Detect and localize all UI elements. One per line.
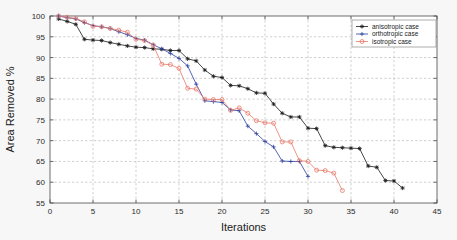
y-tick-label: 85 (36, 74, 45, 83)
x-tick-label: 45 (433, 207, 442, 216)
legend-label: isotropic case (372, 38, 412, 46)
y-tick-label: 55 (36, 199, 45, 208)
x-tick-label: 5 (91, 207, 96, 216)
x-tick-label: 35 (347, 207, 356, 216)
y-tick-label: 65 (36, 157, 45, 166)
y-tick-label: 95 (36, 33, 45, 42)
chart-figure: 051015202530354045 556065707580859095100… (0, 0, 457, 240)
x-tick-label: 40 (390, 207, 399, 216)
x-tick-label: 25 (261, 207, 270, 216)
y-tick-label: 75 (36, 116, 45, 125)
x-tick-label: 0 (48, 207, 53, 216)
line-chart: 051015202530354045 556065707580859095100… (0, 0, 457, 240)
y-tick-label: 70 (36, 137, 45, 146)
y-tick-label: 90 (36, 54, 45, 63)
chart-legend: anisotropic caseorthotropic caseisotropi… (352, 20, 436, 47)
x-tick-label: 10 (132, 207, 141, 216)
y-tick-label: 100 (32, 12, 46, 21)
y-axis-title: Area Removed % (4, 66, 16, 152)
x-tick-label: 15 (175, 207, 184, 216)
x-axis-title: Iterations (221, 221, 267, 233)
x-tick-label: 20 (218, 207, 227, 216)
x-tick-label: 30 (304, 207, 313, 216)
y-tick-label: 60 (36, 178, 45, 187)
y-tick-label: 80 (36, 95, 45, 104)
